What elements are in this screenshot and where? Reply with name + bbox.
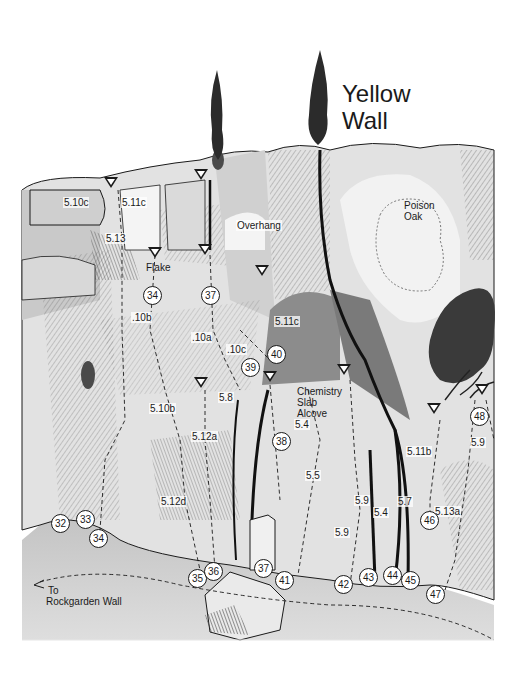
route-number-badge: 41 (275, 571, 294, 590)
route-grade: 5.13a (434, 506, 461, 517)
route-number-badge: 44 (383, 566, 402, 585)
route-grade: 5.12a (191, 431, 218, 442)
route-grade: 5.10b (149, 403, 176, 414)
route-number-badge: 36 (204, 562, 223, 581)
route-number-badge: 37 (201, 286, 220, 305)
anchor-triangle-icon (104, 177, 118, 188)
route-grade: 5.9 (470, 437, 486, 448)
title-line-2: Wall (342, 107, 411, 134)
title-line-1: Yellow (342, 80, 411, 107)
tree-left (211, 70, 224, 160)
route-number-badge: 34 (143, 286, 162, 305)
route-grade: .10b (131, 312, 152, 323)
route-grade: 5.9 (334, 527, 350, 538)
route-number-badge: 45 (401, 571, 420, 590)
alcove-label-1: Chemistry (297, 386, 342, 397)
anchor-triangle-icon (148, 247, 162, 258)
route-grade: 5.7 (397, 496, 413, 507)
anchor-triangle-icon (263, 371, 277, 382)
poison-oak-label-2: Oak (404, 211, 422, 222)
route-grade: 5.11b (406, 446, 432, 457)
route-number-badge: 46 (420, 511, 439, 530)
route-grade: 5.13 (105, 233, 126, 244)
anchor-triangle-icon (255, 265, 269, 276)
route-number-badge: 47 (426, 585, 445, 604)
route-number-badge: 39 (241, 358, 260, 377)
anchor-triangle-icon (198, 244, 212, 255)
anchor-triangle-icon (194, 377, 208, 388)
trail-label-2: Rockgarden Wall (46, 596, 122, 607)
route-grade: 5.8 (218, 392, 234, 403)
route-number-badge: 48 (470, 407, 489, 426)
route-grade: 5.11c (121, 197, 147, 208)
anchor-triangle-icon (194, 169, 208, 180)
trail-label-1: To (48, 585, 59, 596)
flake-label: Flake (146, 262, 170, 273)
route-grade: 5.4 (373, 507, 389, 518)
route-grade: 5.4 (294, 419, 310, 430)
alcove-label-2: Slab (297, 397, 317, 408)
route-grade: 5.10c (63, 197, 89, 208)
route-grade: 5.5 (305, 470, 321, 481)
route-grade: 5.12d (160, 496, 187, 507)
anchor-triangle-icon (427, 403, 441, 414)
anchor-triangle-icon (337, 364, 351, 375)
route-grade: 5.9 (354, 495, 370, 506)
route-grade: .10c (226, 344, 247, 355)
route-number-badge: 32 (51, 514, 70, 533)
route-number-badge: 40 (267, 345, 286, 364)
route-number-badge: 43 (359, 568, 378, 587)
overhang-label: Overhang (236, 220, 282, 231)
tree-right (308, 50, 327, 145)
anchor-triangle-icon (475, 384, 489, 395)
route-grade: .10a (191, 332, 212, 343)
wall-title: Yellow Wall (342, 80, 411, 134)
route-number-badge: 33 (76, 510, 95, 529)
route-grade: 5.11c (274, 316, 300, 327)
route-number-badge: 42 (334, 575, 353, 594)
route-number-badge: 38 (272, 432, 291, 451)
route-number-badge: 34 (89, 529, 108, 548)
poison-oak-label-1: Poison (404, 200, 435, 211)
route-number-badge: 37 (254, 559, 273, 578)
alcove-label-3: Alcove (297, 408, 327, 419)
